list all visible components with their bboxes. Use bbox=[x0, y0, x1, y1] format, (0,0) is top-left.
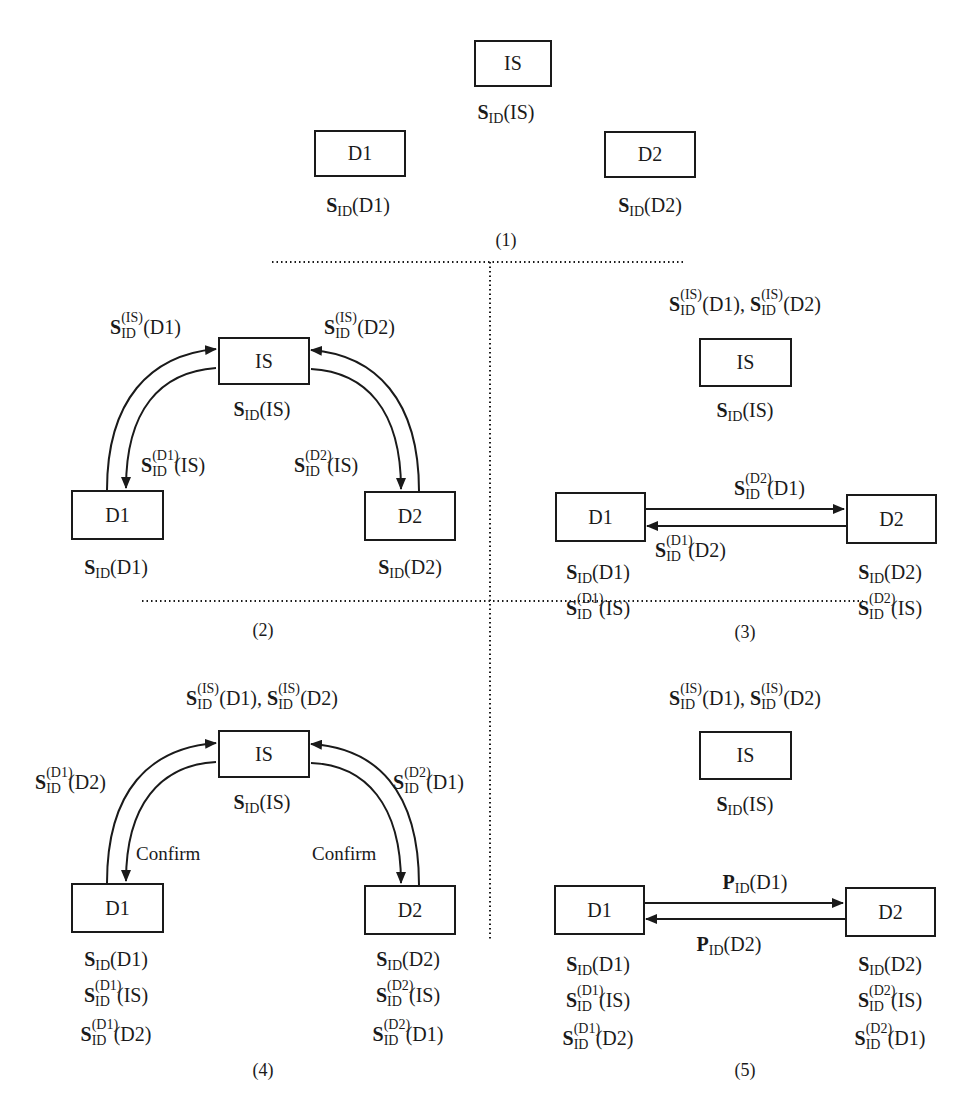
confirm-label: Confirm bbox=[312, 842, 376, 866]
node-d1: D1 bbox=[555, 492, 646, 542]
node-label: IS bbox=[255, 350, 273, 373]
node-label: D1 bbox=[105, 897, 129, 920]
node-d1: D1 bbox=[554, 885, 645, 935]
node-d1: D1 bbox=[71, 883, 164, 933]
d2-secret-label: SID(D2) bbox=[378, 555, 442, 586]
is-received-label: S(IS)ID(D1), S(IS)ID(D2) bbox=[669, 292, 821, 316]
node-label: D1 bbox=[348, 142, 372, 165]
node-is: IS bbox=[699, 338, 792, 387]
node-d1: D1 bbox=[314, 130, 406, 177]
node-label: D2 bbox=[638, 143, 662, 166]
msg-label: S(IS)ID(D1) bbox=[110, 315, 181, 339]
node-label: D2 bbox=[398, 899, 422, 922]
d2-received-label: S(D2)ID(IS) bbox=[858, 596, 922, 620]
d1-secret-label: SID(D1) bbox=[326, 193, 390, 224]
is-received-label: S(IS)ID(D1), S(IS)ID(D2) bbox=[669, 686, 821, 710]
node-d2: D2 bbox=[364, 491, 456, 541]
public-key-label: PID(D1) bbox=[723, 870, 788, 901]
d1-secret-label: SID(D1) bbox=[84, 555, 148, 586]
node-is: IS bbox=[699, 731, 792, 780]
confirm-label: Confirm bbox=[136, 842, 200, 866]
msg-label: S(D2)ID(D1) bbox=[734, 476, 805, 500]
node-label: D2 bbox=[879, 508, 903, 531]
node-label: IS bbox=[255, 743, 273, 766]
node-label: D2 bbox=[398, 505, 422, 528]
d2-received-label: S(D2)ID(IS) bbox=[376, 983, 440, 1007]
is-received-label: S(IS)ID(D1), S(IS)ID(D2) bbox=[186, 686, 338, 710]
node-label: D2 bbox=[878, 901, 902, 924]
d1-received-label: S(D1)ID(IS) bbox=[566, 988, 630, 1012]
node-is: IS bbox=[218, 730, 310, 778]
node-is: IS bbox=[474, 40, 552, 87]
msg-label: S(IS)ID(D2) bbox=[324, 315, 395, 339]
node-d2: D2 bbox=[845, 887, 936, 937]
node-label: IS bbox=[737, 351, 755, 374]
d2-received-label: S(D2)ID(D1) bbox=[373, 1022, 444, 1046]
is-secret-label: SID(IS) bbox=[477, 100, 534, 131]
d1-received-label: S(D1)ID(D2) bbox=[563, 1026, 634, 1050]
public-key-label: PID(D2) bbox=[697, 932, 762, 963]
panel-caption: (4) bbox=[253, 1060, 274, 1081]
key-distribution-diagram: IS D1 D2 SID(IS) SID(D1) SID(D2) (1) IS … bbox=[0, 0, 980, 1119]
panel-caption: (5) bbox=[735, 1060, 756, 1081]
panel-caption: (2) bbox=[253, 620, 274, 641]
node-label: IS bbox=[737, 744, 755, 767]
is-secret-label: SID(IS) bbox=[716, 398, 773, 429]
node-label: D1 bbox=[587, 899, 611, 922]
panel-caption: (1) bbox=[496, 230, 517, 251]
msg-label: S(D1)ID(D2) bbox=[35, 770, 106, 794]
d1-received-label: S(D1)ID(IS) bbox=[566, 596, 630, 620]
node-is: IS bbox=[218, 337, 310, 385]
is-secret-label: SID(IS) bbox=[233, 790, 290, 821]
d2-received-label: S(D2)ID(IS) bbox=[858, 988, 922, 1012]
node-d2: D2 bbox=[364, 885, 456, 935]
d2-received-label: S(D2)ID(D1) bbox=[855, 1026, 926, 1050]
d2-secret-label: SID(D2) bbox=[618, 193, 682, 224]
d1-received-label: S(D1)ID(IS) bbox=[84, 983, 148, 1007]
node-label: D1 bbox=[588, 506, 612, 529]
msg-label: S(D2)ID(IS) bbox=[294, 453, 358, 477]
panel-caption: (3) bbox=[735, 622, 756, 643]
msg-label: S(D2)ID(D1) bbox=[393, 770, 464, 794]
msg-label: S(D1)ID(IS) bbox=[141, 453, 205, 477]
node-d1: D1 bbox=[71, 490, 164, 540]
node-label: D1 bbox=[105, 504, 129, 527]
node-d2: D2 bbox=[604, 131, 696, 178]
is-secret-label: SID(IS) bbox=[233, 397, 290, 428]
node-d2: D2 bbox=[846, 494, 937, 544]
is-secret-label: SID(IS) bbox=[716, 792, 773, 823]
d1-received-label: S(D1)ID(D2) bbox=[81, 1022, 152, 1046]
node-label: IS bbox=[504, 52, 522, 75]
msg-label: S(D1)ID(D2) bbox=[655, 538, 726, 562]
